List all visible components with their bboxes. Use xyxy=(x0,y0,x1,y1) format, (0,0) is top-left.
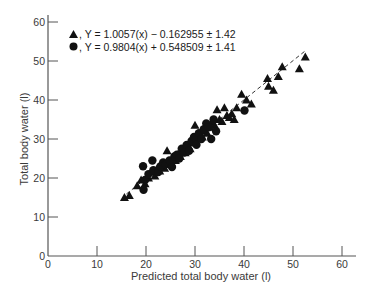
triangle-point xyxy=(220,103,229,111)
circle-point xyxy=(185,147,193,155)
y-tick-label: 30 xyxy=(33,133,45,145)
circle-point xyxy=(168,163,176,171)
legend-label-triangle: , Y = 1.0057(x) − 0.162955 ± 1.42 xyxy=(79,28,236,40)
circle-point xyxy=(240,106,248,114)
circle-point xyxy=(205,123,213,131)
triangle-point xyxy=(232,103,241,111)
triangle-point xyxy=(213,105,222,113)
y-tick-label: 10 xyxy=(33,211,45,223)
x-tick-label: 10 xyxy=(91,258,103,270)
x-tick-label: 20 xyxy=(140,258,152,270)
x-tick-label: 0 xyxy=(45,258,51,270)
triangle-point xyxy=(295,64,304,72)
x-tick-label: 40 xyxy=(238,258,250,270)
triangle-point xyxy=(274,72,283,80)
x-tick-label: 50 xyxy=(287,258,299,270)
triangle-point xyxy=(163,146,172,154)
legend-label-circle: , Y = 0.9804(x) + 0.548509 ± 1.41 xyxy=(79,41,236,53)
y-tick-label: 20 xyxy=(33,172,45,184)
data-points xyxy=(120,53,310,201)
circle-point xyxy=(139,186,147,194)
y-axis-title: Total body water (l) xyxy=(18,93,30,186)
x-tick-label: 30 xyxy=(189,258,201,270)
circle-point xyxy=(139,162,147,170)
circle-point xyxy=(197,135,205,143)
legend-triangle-icon xyxy=(69,30,78,38)
y-tick-label: 60 xyxy=(33,16,45,28)
y-tick-label: 50 xyxy=(33,55,45,67)
circle-point xyxy=(207,135,215,143)
triangle-point xyxy=(237,90,246,98)
scatter-chart: 01020304050600102030405060 , Y = 1.0057(… xyxy=(0,0,372,295)
circle-point xyxy=(148,156,156,164)
circle-point xyxy=(209,115,217,123)
x-axis-title: Predicted total body water (l) xyxy=(131,270,271,282)
y-tick-label: 0 xyxy=(39,250,45,262)
circle-point xyxy=(212,127,220,135)
y-tick-label: 40 xyxy=(33,94,45,106)
triangle-point xyxy=(125,191,134,199)
legend-circle-icon xyxy=(70,43,78,51)
triangle-point xyxy=(191,121,200,129)
x-tick-label: 60 xyxy=(336,258,348,270)
legend: , Y = 1.0057(x) − 0.162955 ± 1.42 , Y = … xyxy=(69,28,236,53)
